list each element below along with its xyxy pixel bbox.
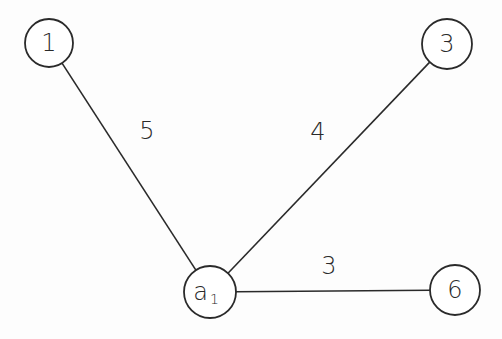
node-label: 6 <box>447 276 462 304</box>
edge-weight-label: 4 <box>310 118 325 146</box>
graph-diagram: 13a16 543 <box>0 0 502 339</box>
edge-n1-na1 <box>62 63 196 270</box>
edge-weight-label: 3 <box>321 252 336 280</box>
graph-node-na1: a1 <box>184 266 236 318</box>
edge-n3-na1 <box>228 62 430 273</box>
node-subscript: 1 <box>210 291 219 307</box>
node-label: 1 <box>41 29 56 57</box>
graph-node-n6: 6 <box>430 265 480 315</box>
graph-node-n1: 1 <box>25 19 73 67</box>
nodes-layer: 13a16 <box>25 19 480 318</box>
edges-layer <box>62 62 430 292</box>
edge-labels-layer: 543 <box>139 117 336 280</box>
node-label: 3 <box>439 30 454 58</box>
graph-svg: 13a16 543 <box>0 0 502 339</box>
graph-node-n3: 3 <box>422 19 472 69</box>
edge-weight-label: 5 <box>139 117 154 145</box>
edge-na1-n6 <box>236 290 430 292</box>
